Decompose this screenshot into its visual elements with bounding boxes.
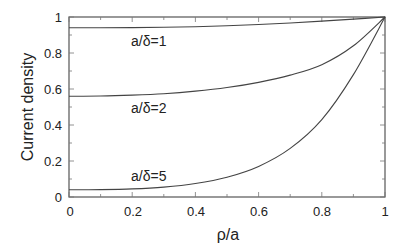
x-tick-0.6: 0.6 <box>250 204 268 219</box>
y-tick-0.8: 0.8 <box>44 46 62 61</box>
axis-ticks <box>69 17 385 197</box>
x-tick-0.2: 0.2 <box>124 204 142 219</box>
y-tick-0.4: 0.4 <box>44 118 62 133</box>
curve-label-a-delta-1: a/δ=1 <box>131 33 167 49</box>
curve-3 <box>69 17 385 190</box>
x-axis-label: ρ/a <box>217 226 240 243</box>
curve-label-a-delta-2: a/δ=2 <box>131 100 167 116</box>
curves <box>69 17 385 190</box>
x-tick-0.8: 0.8 <box>313 204 331 219</box>
x-tick-0: 0 <box>66 204 73 219</box>
curve-label-a-delta-5: a/δ=5 <box>131 168 167 184</box>
y-axis-label: Current density <box>19 53 36 162</box>
plot-frame <box>69 17 385 197</box>
y-tick-0.6: 0.6 <box>44 82 62 97</box>
x-tick-0.4: 0.4 <box>187 204 205 219</box>
y-tick-1: 1 <box>55 10 62 25</box>
y-tick-0.2: 0.2 <box>44 154 62 169</box>
x-tick-1: 1 <box>381 204 388 219</box>
curve-2 <box>69 17 385 96</box>
y-tick-0: 0 <box>55 190 62 205</box>
chart: 0 0.2 0.4 0.6 0.8 1 0 0.2 0.4 0.6 0.8 1 … <box>0 0 401 245</box>
